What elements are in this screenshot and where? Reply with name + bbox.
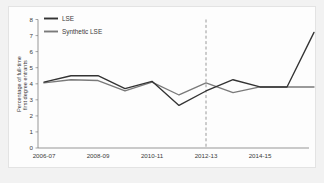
chart-legend: LSE Synthetic LSE [44, 15, 102, 36]
y-axis-title: Percentage of full-time first degree ent… [16, 56, 28, 112]
y-tick-label: 6 [30, 48, 34, 55]
y-axis-title-line2: first degree entrants [22, 60, 28, 110]
x-tick-label: 2010-11 [141, 152, 164, 159]
x-tick-label: 2008-09 [87, 152, 110, 159]
y-tick-label: 2 [30, 112, 34, 119]
line-chart: 0 1 2 3 4 5 6 7 8 Percentage of full-tim… [0, 0, 324, 183]
x-tick-label: 2012-13 [195, 152, 218, 159]
legend-label-synthetic-lse: Synthetic LSE [62, 28, 102, 36]
chart-screenshot: 0 1 2 3 4 5 6 7 8 Percentage of full-tim… [0, 0, 324, 183]
y-tick-label: 8 [30, 16, 34, 23]
x-tick-label: 2014-15 [249, 152, 272, 159]
y-tick-label: 7 [30, 32, 34, 39]
y-tick-label: 3 [30, 96, 34, 103]
y-axis-ticks [36, 20, 39, 149]
x-tick-label: 2006-07 [33, 152, 56, 159]
y-tick-label: 5 [30, 64, 34, 71]
legend-label-lse: LSE [62, 15, 74, 22]
y-tick-label: 4 [30, 80, 34, 87]
y-tick-label: 0 [30, 144, 34, 151]
x-axis-tick-labels: 2006-07 2008-09 2010-11 2012-13 2014-15 [33, 152, 272, 159]
y-tick-label: 1 [30, 128, 34, 135]
chart-canvas: 0 1 2 3 4 5 6 7 8 Percentage of full-tim… [0, 0, 324, 183]
y-axis-tick-labels: 0 1 2 3 4 5 6 7 8 [30, 16, 34, 152]
